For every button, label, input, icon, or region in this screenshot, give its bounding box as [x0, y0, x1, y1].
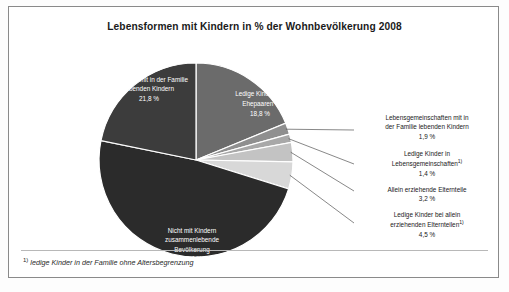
callout-label-lebensgemeinschaften-mit-kindern: Lebensgemeinschaften mit in der Familie … [357, 113, 497, 141]
footnote-divider [21, 250, 488, 251]
callout-label-allein-erziehende-elternteile: Allein erziehende Elternteile 3,2 % [357, 185, 497, 204]
slice-label-line2: zusammenlebende [129, 235, 255, 244]
chart-frame: Lebensformen mit Kindern in % der Wohnbe… [8, 6, 499, 278]
callout-label-ledige-kinder-lebensgemeinschaften: Ledige Kinder in Lebensgemeinschaften1) … [357, 149, 497, 178]
leader-line [289, 139, 354, 164]
callout-label-ledige-kinder-allein-erziehende: Ledige Kinder bei allein erziehenden Elt… [357, 210, 497, 239]
figure-canvas: Lebensformen mit Kindern in % der Wohnbe… [0, 0, 509, 292]
callout-label-line2: Lebensgemeinschaften1) [357, 158, 497, 168]
slice-label-ledige-kinder-ehepaare: Ledige Kinder bei Ehepaaren1) 18,8 % [205, 89, 315, 118]
callout-label-line2: erziehenden Elternteilen1) [357, 219, 497, 229]
footnote-text: ledige Kinder in der Familie ohne Alters… [30, 258, 193, 267]
callout-label-value: 1,9 % [357, 132, 497, 141]
callout-label-value: 1,4 % [357, 169, 497, 178]
slice-label-line1: Ledige Kinder bei [205, 89, 315, 98]
footnote: 1)ledige Kinder in der Familie ohne Alte… [23, 257, 194, 267]
callout-label-value: 4,5 % [357, 230, 497, 239]
leader-line [286, 129, 354, 130]
footnote-ref: 1) [458, 158, 462, 164]
slice-label-line2: Ehepaaren1) [205, 98, 315, 108]
footnote-ref: 1) [273, 98, 277, 104]
slice-label-line2: lebenden Kindern [89, 84, 209, 93]
callout-label-value: 3,2 % [357, 194, 497, 203]
slice-label-line2-text: Ehepaaren [242, 100, 273, 107]
leader-line [291, 152, 354, 191]
callout-label-line2-text: Lebensgemeinschaften [392, 160, 458, 167]
callout-label-line1: Ledige Kinder in [357, 149, 497, 158]
footnote-ref: 1) [459, 219, 463, 225]
leader-line [290, 175, 354, 223]
callout-label-line1: Ledige Kinder bei allein [357, 210, 497, 219]
callout-label-line2-text: erziehenden Elternteilen [390, 221, 459, 228]
slice-label-line1: Nicht mit Kindern [129, 226, 255, 235]
slice-label-ehepaare-mit-kindern: Ehepaare mit in der Familie lebenden Kin… [89, 75, 209, 103]
callout-label-line1: Lebensgemeinschaften mit in [357, 113, 497, 122]
leader-lines [286, 129, 354, 223]
slice-label-value: 21,8 % [89, 94, 209, 103]
slice-label-line1: Ehepaare mit in der Familie [89, 75, 209, 84]
callout-label-line2: der Familie lebenden Kindern [357, 122, 497, 131]
callout-label-line1: Allein erziehende Elternteile [357, 185, 497, 194]
slice-label-value: 18,8 % [205, 109, 315, 118]
